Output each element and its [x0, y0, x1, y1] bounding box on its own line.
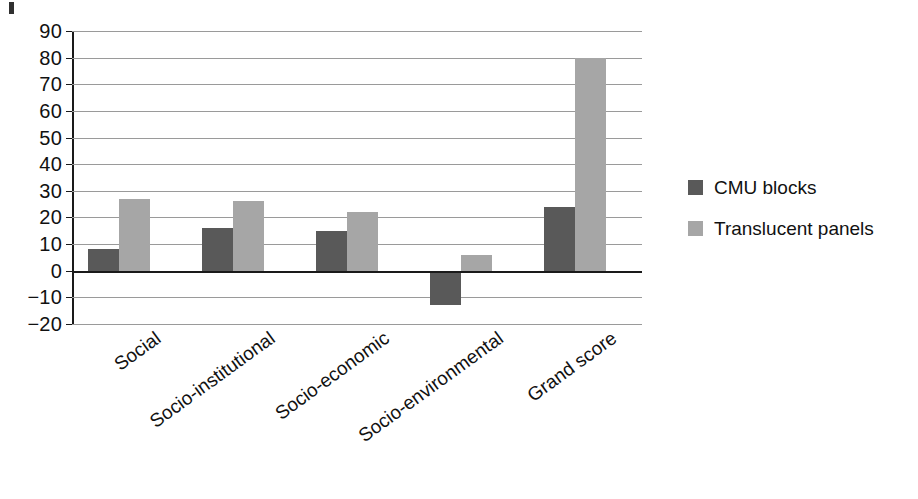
y-axis-tick-label: 10 [39, 234, 62, 254]
bar [575, 58, 606, 271]
y-axis-tick-label: 40 [39, 154, 62, 174]
bar [233, 201, 264, 270]
legend-label: Translucent panels [714, 219, 874, 238]
zero-line [72, 271, 642, 273]
y-axis-tick-label: 80 [39, 48, 62, 68]
bar [88, 249, 119, 270]
bar-group [202, 31, 264, 324]
x-axis-labels: SocialSocio-institutionalSocio-economicS… [72, 324, 672, 484]
bar [316, 231, 347, 271]
y-axis-tick-label: 30 [39, 181, 62, 201]
x-axis-tick-label: Socio-economic [272, 328, 393, 423]
bar [544, 207, 575, 271]
y-axis-tick-label: 20 [39, 207, 62, 227]
y-axis-tick-label: 0 [51, 261, 62, 281]
bar-group [316, 31, 378, 324]
legend-item[interactable]: CMU blocks [688, 178, 913, 197]
scan-artifact-mark [9, 2, 14, 14]
y-axis-tick-label: 70 [39, 74, 62, 94]
legend-swatch-icon [688, 221, 703, 236]
bar-group [88, 31, 150, 324]
bars-layer [72, 31, 642, 324]
x-axis-tick-label: Social [111, 328, 164, 374]
x-axis-tick-label: Grand score [524, 328, 620, 405]
y-axis-tick-label: 90 [39, 21, 62, 41]
legend-item[interactable]: Translucent panels [688, 219, 913, 238]
bar [461, 255, 492, 271]
bar [202, 228, 233, 271]
bar [430, 271, 461, 306]
y-axis-tick-label: 60 [39, 101, 62, 121]
bar [119, 199, 150, 271]
bar [347, 212, 378, 271]
plot-area [72, 31, 642, 324]
chart-figure: 9080706050403020100−10−20 SocialSocio-in… [0, 0, 918, 499]
legend-label: CMU blocks [714, 178, 816, 197]
y-axis-tick-label: −20 [27, 314, 62, 334]
y-axis-labels: 9080706050403020100−10−20 [0, 31, 62, 324]
legend-swatch-icon [688, 180, 703, 195]
x-axis-tick-label: Socio-institutional [147, 328, 279, 431]
chart-legend: CMU blocksTranslucent panels [688, 178, 913, 260]
bar-group [430, 31, 492, 324]
y-axis-tick-label: 50 [39, 128, 62, 148]
bar-group [544, 31, 606, 324]
y-axis-tick-label: −10 [27, 287, 62, 307]
